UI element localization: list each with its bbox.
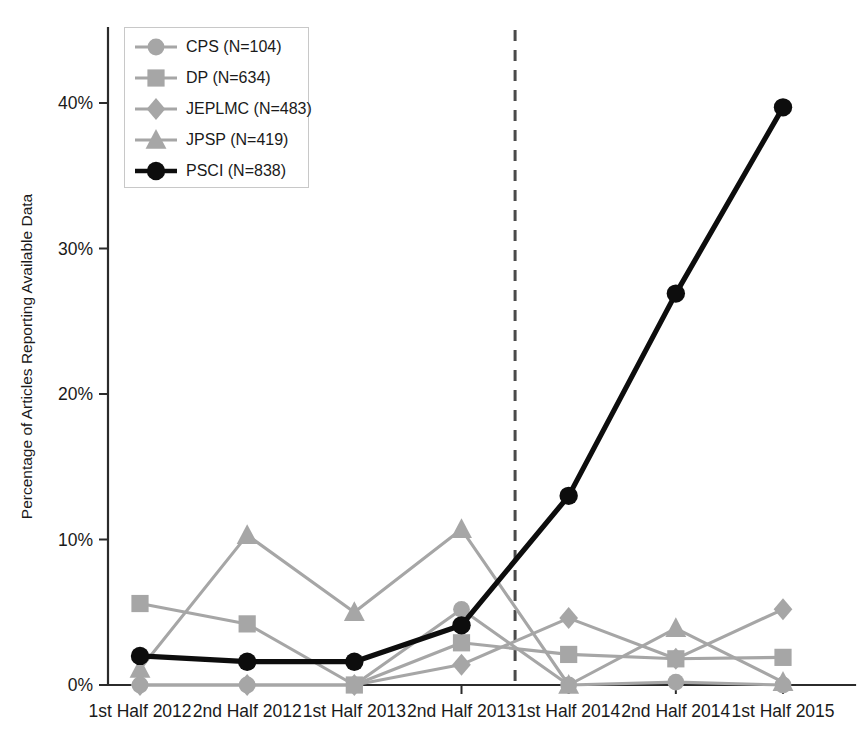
circle-icon — [133, 159, 179, 183]
legend-item-label: JPSP (N=419) — [179, 131, 288, 149]
square-icon — [133, 66, 179, 90]
data-point-marker — [237, 524, 258, 544]
data-point-marker — [453, 634, 470, 651]
legend-item-label: DP (N=634) — [179, 69, 271, 87]
data-point-marker — [451, 518, 472, 538]
x-axis-tick-label: 2nd Half 2012 — [193, 701, 302, 721]
legend-item[interactable]: CPS (N=104) — [125, 31, 308, 62]
chart-figure: 0%10%20%30%40%1st Half 20122nd Half 2012… — [0, 0, 866, 731]
circle-icon — [133, 35, 179, 59]
data-point-marker — [131, 647, 149, 665]
data-point-marker — [559, 607, 578, 629]
chart-legend: CPS (N=104)DP (N=634)JEPLMC (N=483)JPSP … — [124, 27, 309, 188]
y-axis-tick-label: 10% — [58, 530, 93, 550]
legend-item-label: CPS (N=104) — [179, 38, 282, 56]
data-point-marker — [239, 615, 256, 632]
x-axis-tick-label: 1st Half 2015 — [731, 701, 834, 721]
y-axis-tick-label: 40% — [58, 93, 93, 113]
triangle-icon — [133, 128, 179, 152]
y-axis-title: Percentage of Articles Reporting Availab… — [18, 193, 35, 519]
data-point-marker — [452, 616, 470, 634]
x-axis-tick-label: 2nd Half 2013 — [407, 701, 516, 721]
x-axis-tick-label: 1st Half 2014 — [517, 701, 620, 721]
x-axis-tick-label: 1st Half 2013 — [303, 701, 406, 721]
y-axis-tick-label: 0% — [68, 675, 93, 695]
legend-item-label: JEPLMC (N=483) — [179, 100, 312, 118]
data-point-marker — [667, 284, 685, 302]
diamond-icon — [133, 97, 179, 121]
y-axis-tick-label: 20% — [58, 384, 93, 404]
x-axis-tick-label: 2nd Half 2014 — [621, 701, 730, 721]
x-axis-tick-label: 1st Half 2012 — [88, 701, 191, 721]
data-point-marker — [665, 617, 686, 637]
data-point-marker — [131, 595, 148, 612]
legend-item[interactable]: PSCI (N=838) — [125, 155, 308, 186]
legend-item-label: PSCI (N=838) — [179, 162, 286, 180]
data-point-marker — [238, 653, 256, 671]
data-point-marker — [774, 598, 793, 620]
legend-item[interactable]: JEPLMC (N=483) — [125, 93, 308, 124]
data-point-marker — [774, 649, 791, 666]
series-line — [140, 107, 783, 661]
data-point-marker — [344, 601, 365, 621]
legend-item[interactable]: JPSP (N=419) — [125, 124, 308, 155]
legend-item[interactable]: DP (N=634) — [125, 62, 308, 93]
data-point-marker — [559, 487, 577, 505]
y-axis-tick-label: 30% — [58, 239, 93, 259]
data-point-marker — [667, 674, 684, 691]
data-point-marker — [452, 654, 471, 676]
data-point-marker — [774, 98, 792, 116]
data-point-marker — [345, 653, 363, 671]
data-point-marker — [238, 674, 257, 696]
data-point-marker — [560, 646, 577, 663]
